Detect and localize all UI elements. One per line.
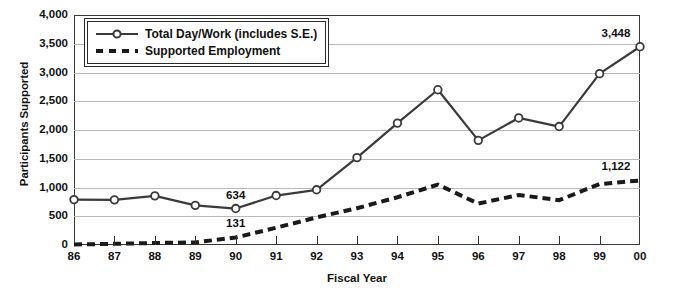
x-axis-tick-label: 88 xyxy=(135,250,175,262)
data-point-marker xyxy=(313,186,321,194)
x-axis-tick-mark xyxy=(276,236,277,245)
x-axis-tick-mark xyxy=(478,236,479,245)
x-axis-tick-label: 95 xyxy=(418,250,458,262)
x-axis-tick-mark xyxy=(155,236,156,245)
data-point-marker xyxy=(151,192,159,200)
data-point-marker xyxy=(515,114,523,122)
x-axis-tick-label: 91 xyxy=(256,250,296,262)
x-axis-title: Fiscal Year xyxy=(74,272,640,284)
y-axis-tick-label: 1,500 xyxy=(0,153,68,165)
x-axis-tick-label: 87 xyxy=(94,250,134,262)
data-point-marker xyxy=(636,43,644,51)
y-axis-tick-label: 1,000 xyxy=(0,182,68,194)
data-point-marker xyxy=(353,154,361,162)
y-axis-tick-label: 0 xyxy=(0,239,68,251)
chart-legend: Total Day/Work (includes S.E.) Supported… xyxy=(84,18,329,67)
x-axis-tick-mark xyxy=(114,236,115,245)
data-point-marker xyxy=(191,202,199,210)
x-axis-tick-mark xyxy=(397,236,398,245)
x-axis-tick-label: 00 xyxy=(620,250,660,262)
x-axis-tick-mark xyxy=(236,236,237,245)
y-axis-tick-label: 4,000 xyxy=(0,9,68,21)
x-axis-tick-label: 98 xyxy=(539,250,579,262)
y-axis-tick-label: 500 xyxy=(0,210,68,222)
legend-label-supported-employment: Supported Employment xyxy=(145,44,280,58)
data-point-marker xyxy=(272,192,280,200)
x-axis-tick-mark xyxy=(357,236,358,245)
data-label: 131 xyxy=(206,217,266,229)
dashed-line-icon xyxy=(94,44,140,58)
chart-figure: Participants Supported Fiscal Year 05001… xyxy=(0,0,675,299)
data-point-marker xyxy=(394,119,402,127)
data-point-marker xyxy=(434,86,442,94)
data-label: 3,448 xyxy=(586,27,646,39)
y-axis-tick-label: 3,000 xyxy=(0,67,68,79)
x-axis-tick-label: 94 xyxy=(377,250,417,262)
data-label: 1,122 xyxy=(586,160,646,172)
x-axis-tick-label: 96 xyxy=(458,250,498,262)
y-axis-tick-label: 3,500 xyxy=(0,38,68,50)
data-point-marker xyxy=(596,70,604,78)
data-point-marker xyxy=(70,196,78,204)
x-axis-tick-label: 89 xyxy=(175,250,215,262)
line-open-circle-icon xyxy=(94,27,140,41)
legend-item-total-day-work: Total Day/Work (includes S.E.) xyxy=(94,25,317,42)
data-label: 634 xyxy=(206,189,266,201)
x-axis-tick-label: 86 xyxy=(54,250,94,262)
legend-item-supported-employment: Supported Employment xyxy=(94,42,317,59)
x-axis-tick-mark xyxy=(559,236,560,245)
data-point-marker xyxy=(232,205,240,213)
x-axis-tick-mark xyxy=(519,236,520,245)
data-point-marker xyxy=(474,137,482,145)
x-axis-tick-label: 97 xyxy=(499,250,539,262)
x-axis-tick-label: 90 xyxy=(216,250,256,262)
x-axis-tick-mark xyxy=(317,236,318,245)
x-axis-tick-mark xyxy=(195,236,196,245)
series-line xyxy=(74,180,640,244)
x-axis-tick-mark xyxy=(600,236,601,245)
data-point-marker xyxy=(111,196,119,204)
y-axis-tick-label: 2,000 xyxy=(0,124,68,136)
x-axis-tick-label: 93 xyxy=(337,250,377,262)
legend-label-total-day-work: Total Day/Work (includes S.E.) xyxy=(145,27,317,41)
y-axis-tick-label: 2,500 xyxy=(0,95,68,107)
data-point-marker xyxy=(555,123,563,131)
x-axis-tick-mark xyxy=(438,236,439,245)
x-axis-tick-label: 99 xyxy=(580,250,620,262)
x-axis-tick-label: 92 xyxy=(297,250,337,262)
